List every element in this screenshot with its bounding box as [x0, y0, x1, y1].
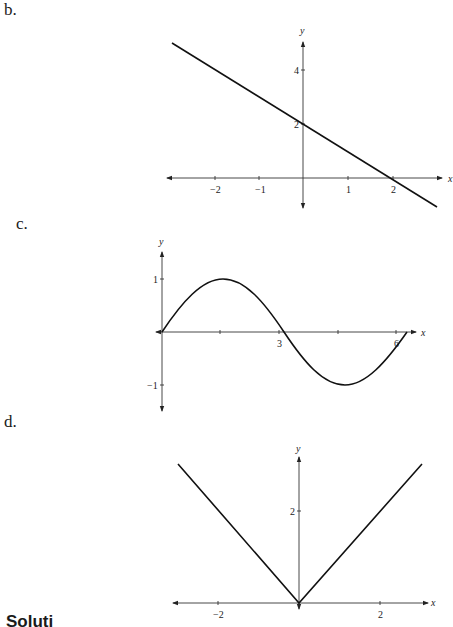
- graph-d-xtick: −2: [213, 609, 224, 620]
- graph-c-xlabel: x: [420, 327, 426, 338]
- graph-b-xtick: −2: [210, 184, 221, 195]
- graph-b-xlabel: x: [447, 173, 453, 184]
- graph-c-ytick: −1: [147, 380, 158, 391]
- graph-b: −2 −1 1 2 2 4 y x: [167, 25, 453, 208]
- graph-d-ylabel: y: [295, 443, 301, 454]
- graph-b-line: [172, 43, 437, 207]
- figure-canvas: −2 −1 1 2 2 4 y x 3 6 1 −1 y x: [0, 0, 453, 627]
- graph-d-xlabel: x: [430, 597, 436, 608]
- graph-d: −2 2 2 y x: [173, 443, 436, 620]
- graph-d-abs-curve: [178, 464, 422, 603]
- graph-b-ytick: 4: [294, 65, 299, 76]
- graph-d-ytick: 2: [290, 506, 295, 517]
- graph-c: 3 6 1 −1 y x: [147, 236, 426, 411]
- graph-b-xtick: 2: [391, 184, 396, 195]
- graph-c-xtick: 3: [277, 338, 282, 349]
- graph-c-ylabel: y: [158, 236, 164, 247]
- graph-d-xtick: 2: [378, 609, 383, 620]
- graph-b-ylabel: y: [299, 25, 305, 36]
- graph-b-xtick: −1: [255, 184, 266, 195]
- graph-b-xtick: 1: [346, 184, 351, 195]
- solution-heading: Soluti: [6, 612, 53, 627]
- graph-c-ytick: 1: [153, 274, 158, 285]
